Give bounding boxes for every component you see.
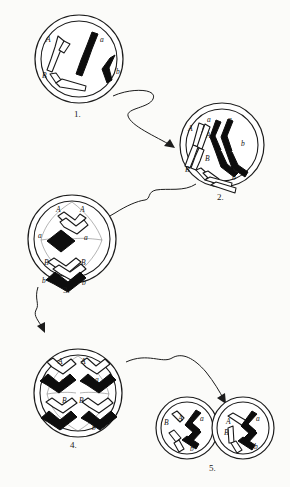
stage4-label-a-left: a	[61, 376, 65, 385]
stage-5-daughter-cells: B A a b A B a b 5.	[156, 397, 274, 473]
stage2-caption: 2.	[217, 192, 224, 202]
arrow-stage3-to-stage4	[35, 287, 45, 333]
meiosis-diagram: A a B b 1. A A a a B B b b	[0, 0, 290, 487]
stage3-label-a-right: a	[84, 233, 88, 242]
left-daughter-cell: B A a b	[156, 397, 218, 459]
stage1-label-B: B	[42, 71, 47, 80]
stage5-left-label-a: a	[200, 414, 204, 423]
stage2-label-A-left: A	[187, 124, 193, 133]
stage3-label-b-left: b	[42, 276, 46, 285]
stage2-label-A-mid: A	[205, 131, 211, 140]
stage1-caption: 1.	[74, 109, 81, 119]
stage-2-cell: A A a a B B b b 2.	[180, 103, 264, 202]
stage3-label-B-left: B	[44, 258, 49, 267]
stage3-label-A-left: A	[55, 205, 61, 214]
right-daughter-cell: A B a b	[212, 397, 274, 459]
stage1-label-a: a	[100, 35, 104, 44]
stage2-label-B-mid: B	[205, 154, 210, 163]
stage5-right-label-B: B	[224, 428, 229, 437]
arrow-stage4-to-stage5	[126, 356, 226, 404]
stage3-label-b-right: b	[82, 278, 86, 287]
stage4-label-b-left: b	[59, 423, 63, 432]
stage4-label-a-right: a	[95, 375, 99, 384]
stage4-label-A-right: A	[80, 357, 86, 366]
stage5-left-label-B: B	[164, 418, 169, 427]
stage1-label-A: A	[45, 35, 51, 44]
stage2-label-b-right: b	[241, 139, 245, 148]
stage2-label-b-low: b	[232, 173, 236, 182]
stage2-label-a-top-right: a	[228, 115, 232, 124]
stage5-right-label-A: A	[225, 417, 231, 426]
stage4-caption: 4.	[70, 440, 77, 450]
stage3-caption: 3.	[63, 285, 70, 295]
stage1-label-b: b	[116, 67, 120, 76]
stage3-label-A-right: A	[79, 205, 85, 214]
stage4-label-B-right: B	[79, 396, 84, 405]
stage4-label-A-left: A	[57, 357, 63, 366]
stage5-caption: 5.	[209, 463, 216, 473]
stage2-label-B-left: B	[185, 165, 190, 174]
arrow-stage1-to-stage2	[113, 90, 175, 148]
stage4-label-b-right: b	[92, 423, 96, 432]
stage2-label-a-top-left: a	[207, 115, 211, 124]
stage-1-cell: A a B b 1.	[35, 15, 123, 119]
stage3-label-B-right: B	[81, 258, 86, 267]
stage5-left-label-A: A	[177, 414, 183, 423]
stage5-right-label-a: a	[256, 414, 260, 423]
stage4-label-B-left: B	[62, 396, 67, 405]
stage5-right-label-b: b	[254, 442, 258, 451]
stage3-label-a-left: a	[38, 231, 42, 240]
stage-3-cell: A A a a B B b b 3.	[28, 195, 116, 295]
stage5-left-label-b: b	[190, 444, 194, 453]
stage-4-cell: A A a a B B b b 4.	[34, 349, 122, 450]
